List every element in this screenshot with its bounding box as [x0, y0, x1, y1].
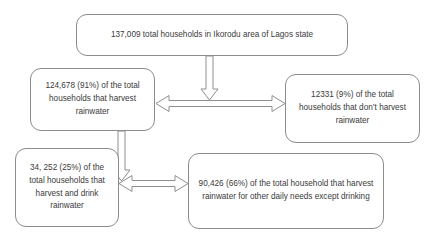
node-harvest-rainwater: 124,678 (91%) of the total households th…: [30, 68, 155, 131]
node-no-harvest-rainwater: 12331 (9%) of the total households that …: [285, 74, 420, 143]
flowchart-diagram: 137,009 total households in Ikorodu area…: [0, 0, 437, 240]
node-harvest-rainwater-label: 124,678 (91%) of the total households th…: [37, 80, 148, 118]
node-other-daily-needs-label: 90,426 (66%) of the total household that…: [195, 178, 377, 203]
harvest-vs-no-harvest-arrow: [156, 96, 285, 112]
total-to-split-arrow: [201, 56, 218, 100]
drink-vs-other-needs-arrow: [119, 176, 188, 192]
node-no-harvest-rainwater-label: 12331 (9%) of the total households that …: [292, 89, 413, 127]
node-harvest-and-drink: 34, 252 (25%) of the total households th…: [15, 148, 119, 227]
node-other-daily-needs: 90,426 (66%) of the total household that…: [188, 153, 384, 229]
node-harvest-and-drink-label: 34, 252 (25%) of the total households th…: [22, 162, 112, 213]
node-total-households-label: 137,009 total households in Ikorodu area…: [111, 29, 313, 42]
node-total-households: 137,009 total households in Ikorodu area…: [76, 14, 348, 56]
